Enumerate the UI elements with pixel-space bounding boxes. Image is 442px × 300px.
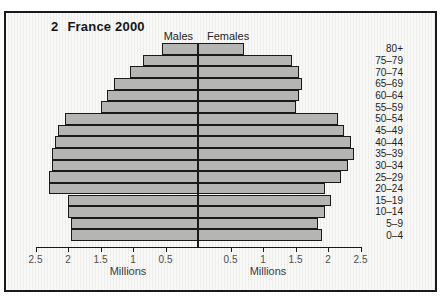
axis-tick bbox=[231, 247, 232, 252]
male-bar-75–79 bbox=[143, 55, 198, 67]
age-group-label: 40–44 bbox=[343, 136, 403, 148]
axis-tick bbox=[361, 247, 362, 252]
male-bar-55–59 bbox=[101, 101, 199, 113]
females-column-header: Females bbox=[207, 30, 287, 42]
female-bar-30–34 bbox=[198, 160, 348, 172]
age-group-label: 10–14 bbox=[343, 206, 403, 218]
female-bar-55–59 bbox=[198, 101, 296, 113]
age-group-label: 80+ bbox=[343, 43, 403, 55]
female-bar-25–29 bbox=[198, 171, 341, 183]
male-bar-20–24 bbox=[49, 183, 199, 195]
axis-tick bbox=[166, 247, 167, 252]
male-bar-60–64 bbox=[107, 90, 198, 102]
female-bar-65–69 bbox=[198, 78, 302, 90]
x-axis-line bbox=[36, 247, 361, 248]
age-group-label: 65–69 bbox=[343, 78, 403, 90]
age-group-label: 5–9 bbox=[343, 218, 403, 230]
axis-tick bbox=[263, 247, 264, 252]
male-bar-15–19 bbox=[68, 195, 198, 207]
age-group-label: 35–39 bbox=[343, 148, 403, 160]
axis-tick bbox=[296, 247, 297, 252]
female-bar-20–24 bbox=[198, 183, 325, 195]
age-group-label: 60–64 bbox=[343, 90, 403, 102]
axis-tick-label: 0.5 bbox=[216, 254, 246, 265]
male-bar-25–29 bbox=[49, 171, 199, 183]
axis-tick bbox=[36, 247, 37, 252]
age-group-label: 25–29 bbox=[343, 171, 403, 183]
axis-tick bbox=[101, 247, 102, 252]
axis-tick bbox=[328, 247, 329, 252]
age-group-label: 20–24 bbox=[343, 183, 403, 195]
axis-tick-label: 1 bbox=[248, 254, 278, 265]
female-bar-0–4 bbox=[198, 229, 322, 241]
x-axis-label-left: Millions bbox=[88, 265, 168, 277]
age-group-label: 50–54 bbox=[343, 113, 403, 125]
axis-tick bbox=[68, 247, 69, 252]
plot-frame: 2France 2000 Males Females 80+75–7970–74… bbox=[4, 11, 437, 292]
female-bar-80+ bbox=[198, 43, 244, 55]
male-bar-65–69 bbox=[114, 78, 199, 90]
age-group-label: 45–49 bbox=[343, 125, 403, 137]
female-bar-10–14 bbox=[198, 206, 325, 218]
male-bar-80+ bbox=[162, 43, 198, 55]
population-pyramid-screenshot: 2France 2000 Males Females 80+75–7970–74… bbox=[0, 0, 442, 300]
female-bar-35–39 bbox=[198, 148, 354, 160]
age-group-label: 70–74 bbox=[343, 66, 403, 78]
axis-tick-label: 0.5 bbox=[151, 254, 181, 265]
male-bar-50–54 bbox=[65, 113, 198, 125]
axis-tick-label: 1.5 bbox=[281, 254, 311, 265]
female-bar-45–49 bbox=[198, 125, 344, 137]
female-bar-5–9 bbox=[198, 218, 318, 230]
axis-tick-label: 2 bbox=[313, 254, 343, 265]
female-bar-15–19 bbox=[198, 195, 331, 207]
male-bar-70–74 bbox=[130, 66, 198, 78]
male-bar-40–44 bbox=[55, 136, 198, 148]
female-bar-70–74 bbox=[198, 66, 299, 78]
axis-tick-label: 2 bbox=[53, 254, 83, 265]
male-bar-35–39 bbox=[52, 148, 198, 160]
male-bar-5–9 bbox=[71, 218, 198, 230]
plot-area: 2France 2000 Males Females 80+75–7970–74… bbox=[6, 13, 435, 290]
axis-tick-label: 1.5 bbox=[86, 254, 116, 265]
axis-tick bbox=[133, 247, 134, 252]
female-bar-60–64 bbox=[198, 90, 299, 102]
male-bar-10–14 bbox=[68, 206, 198, 218]
age-group-label: 30–34 bbox=[343, 160, 403, 172]
female-bar-75–79 bbox=[198, 55, 292, 67]
center-axis-line bbox=[197, 43, 199, 247]
axis-tick-label: 2.5 bbox=[346, 254, 376, 265]
axis-tick-label: 1 bbox=[118, 254, 148, 265]
male-bar-0–4 bbox=[71, 229, 198, 241]
male-bar-45–49 bbox=[58, 125, 198, 137]
axis-tick-label: 2.5 bbox=[21, 254, 51, 265]
x-axis-label-right: Millions bbox=[228, 265, 308, 277]
age-group-label: 75–79 bbox=[343, 55, 403, 67]
age-group-label: 15–19 bbox=[343, 195, 403, 207]
female-bar-50–54 bbox=[198, 113, 338, 125]
age-group-label: 0–4 bbox=[343, 229, 403, 241]
figure-number: 2 bbox=[51, 19, 58, 34]
female-bar-40–44 bbox=[198, 136, 351, 148]
male-bar-30–34 bbox=[52, 160, 198, 172]
males-column-header: Males bbox=[123, 30, 193, 42]
age-group-label: 55–59 bbox=[343, 101, 403, 113]
